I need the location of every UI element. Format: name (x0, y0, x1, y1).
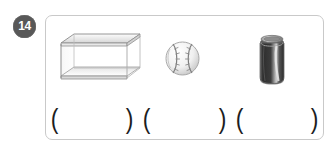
paren-open-2: ( (143, 106, 151, 133)
baseball-icon (164, 40, 201, 77)
answer-row: ( ) ( ) ( ) (46, 99, 323, 139)
figure-baseball (164, 40, 201, 81)
figure-glass-box (59, 32, 142, 88)
figure-soda-can (257, 34, 287, 89)
soda-can-icon (257, 34, 287, 85)
paren-close-2: ) (218, 106, 226, 133)
answer-blank-2[interactable]: ( ) (138, 106, 230, 133)
worksheet-canvas: 14 (0, 0, 329, 151)
figure-row (46, 16, 323, 96)
question-number-badge: 14 (13, 15, 36, 38)
answer-blank-1[interactable]: ( ) (46, 106, 138, 133)
glass-box-icon (59, 32, 142, 84)
paren-close-3: ) (311, 106, 319, 133)
answer-blank-3[interactable]: ( ) (231, 106, 323, 133)
paren-open-1: ( (51, 106, 59, 133)
question-panel: ( ) ( ) ( ) (45, 15, 324, 140)
paren-open-3: ( (235, 106, 243, 133)
paren-close-1: ) (126, 106, 134, 133)
